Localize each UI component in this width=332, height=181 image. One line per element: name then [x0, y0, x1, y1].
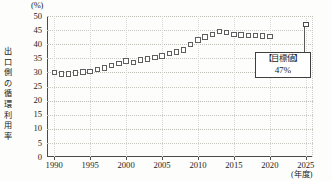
gridline-y-10	[47, 129, 313, 130]
x-tick-label-2015: 2015	[214, 161, 254, 170]
y-tick-label-0: 0	[18, 153, 42, 162]
gridline-y-25	[47, 87, 313, 88]
data-point	[131, 60, 136, 65]
gridline-y-20	[47, 101, 313, 102]
data-point	[138, 57, 143, 62]
y-tick-label-40: 40	[18, 40, 42, 49]
x-tick-label-2025: 2025	[286, 161, 326, 170]
x-tick-label-1995: 1995	[70, 161, 110, 170]
x-tick-label-2000: 2000	[106, 161, 146, 170]
data-point	[217, 29, 222, 34]
data-point	[238, 32, 243, 37]
x-tick-label-1990: 1990	[34, 161, 74, 170]
data-point	[109, 63, 114, 68]
data-point	[87, 69, 92, 74]
data-point	[80, 69, 85, 74]
y-tick-label-25: 25	[18, 82, 42, 91]
y-tick-label-30: 30	[18, 68, 42, 77]
data-point	[210, 32, 215, 37]
data-point	[95, 67, 100, 72]
y-tick-label-5: 5	[18, 139, 42, 148]
data-point	[145, 56, 150, 61]
data-point	[167, 51, 172, 56]
x-tick-label-2020: 2020	[250, 161, 290, 170]
gridline-x-2015	[234, 16, 235, 157]
gridline-y-50	[47, 16, 313, 17]
data-point	[188, 42, 193, 47]
data-point	[174, 49, 179, 54]
data-point	[102, 65, 107, 70]
data-point	[246, 33, 251, 38]
y-axis-title: 出口側の循環利用率	[1, 47, 14, 142]
y-tick-label-20: 20	[18, 96, 42, 105]
data-point	[195, 37, 200, 42]
data-point	[224, 30, 229, 35]
data-point	[181, 47, 186, 52]
data-point	[159, 53, 164, 58]
data-point	[123, 58, 128, 63]
target-leader-line	[304, 27, 305, 52]
data-point	[152, 55, 157, 60]
gridline-y-40	[47, 44, 313, 45]
data-point	[66, 71, 71, 76]
data-point	[73, 70, 78, 75]
gridline-x-2000	[126, 16, 127, 157]
y-tick-label-45: 45	[18, 26, 42, 35]
x-axis-unit-label: (年度)	[291, 170, 312, 179]
y-tick-label-35: 35	[18, 54, 42, 63]
x-tick-label-2005: 2005	[142, 161, 182, 170]
gridline-y-5	[47, 143, 313, 144]
target-label-text: 【目標値】	[259, 54, 307, 65]
data-point	[52, 70, 57, 75]
data-point	[59, 71, 64, 76]
gridline-y-45	[47, 30, 313, 31]
gridline-x-1995	[90, 16, 91, 157]
y-tick-label-15: 15	[18, 110, 42, 119]
gridline-x-2005	[162, 16, 163, 157]
gridline-x-2025	[306, 16, 307, 157]
data-point	[202, 34, 207, 39]
y-tick-label-50: 50	[18, 12, 42, 21]
y-tick-label-10: 10	[18, 124, 42, 133]
data-point	[253, 33, 258, 38]
x-tick-label-2010: 2010	[178, 161, 218, 170]
data-point	[260, 33, 265, 38]
data-point	[267, 34, 272, 39]
data-point	[116, 61, 121, 66]
data-point	[231, 32, 236, 37]
chart-root: (%) 出口側の循環利用率 05101520253035404550 19901…	[0, 0, 332, 181]
gridline-y-15	[47, 115, 313, 116]
target-value-text: 47%	[259, 65, 307, 76]
y-axis-unit-label: (%)	[31, 0, 43, 10]
target-value-callout: 【目標値】 47%	[255, 52, 311, 78]
gridline-x-1990	[54, 16, 55, 157]
